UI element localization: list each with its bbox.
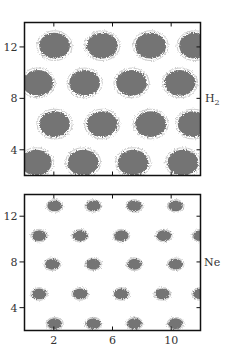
ne-trajectory-cloud <box>46 200 63 213</box>
h2-trajectory-cloud <box>115 148 150 178</box>
ne-trajectory-cloud <box>44 258 61 271</box>
ne-trajectory-cloud <box>46 317 63 330</box>
x-tick-label: 10 <box>164 334 178 347</box>
ne-trajectory-cloud <box>85 258 102 271</box>
ne-trajectory-cloud <box>113 229 130 242</box>
h2-trajectory-cloud <box>133 31 168 61</box>
h2-trajectory-cloud <box>85 31 120 61</box>
h2-trajectory-cloud <box>175 109 210 139</box>
ne-trajectory-cloud <box>126 317 143 330</box>
ne-trajectory-cloud <box>113 288 130 301</box>
ne-trajectory-cloud <box>31 229 48 242</box>
y-tick-label: 8 <box>11 256 18 269</box>
x-tick-label: 6 <box>109 334 116 347</box>
y-tick-label: 8 <box>11 92 18 105</box>
ne-trajectory-cloud <box>31 288 48 301</box>
ne-trajectory-cloud <box>167 317 184 330</box>
h2-panel-label: H2 <box>205 92 220 107</box>
ne-trajectory-cloud <box>85 200 102 213</box>
ne-trajectory-clouds <box>31 200 209 330</box>
y-tick-label: 4 <box>11 144 18 157</box>
x-tick-label: 2 <box>50 334 57 347</box>
h2-trajectory-cloud <box>20 68 55 98</box>
h2-trajectory-cloud <box>37 109 72 139</box>
ne-trajectory-cloud <box>167 258 184 271</box>
h2-trajectory-cloud <box>177 31 212 61</box>
h2-trajectory-cloud <box>65 148 100 178</box>
panel-ne: 48122610 Ne <box>4 195 221 347</box>
h2-trajectory-cloud <box>162 68 197 98</box>
ne-trajectory-cloud <box>85 317 102 330</box>
h2-trajectory-cloud <box>165 148 200 178</box>
ne-trajectory-cloud <box>126 258 143 271</box>
y-tick-label: 12 <box>4 210 18 223</box>
h2-trajectory-clouds <box>19 31 213 178</box>
ne-trajectory-cloud <box>72 288 89 301</box>
y-tick-label: 4 <box>11 302 18 315</box>
ne-trajectory-cloud <box>126 200 143 213</box>
h2-trajectory-cloud <box>37 31 72 61</box>
ne-trajectory-cloud <box>72 229 89 242</box>
h2-trajectory-cloud <box>133 109 168 139</box>
panel-h2: 4812 H2 <box>4 23 220 178</box>
h2-trajectory-cloud <box>67 68 102 98</box>
h2-trajectory-cloud <box>85 109 120 139</box>
figure: 4812 H2 48122610 Ne <box>0 0 231 348</box>
ne-trajectory-cloud <box>154 288 171 301</box>
y-tick-label: 12 <box>4 41 18 54</box>
ne-panel-label: Ne <box>204 256 220 269</box>
ne-trajectory-cloud <box>155 229 172 242</box>
h2-trajectory-cloud <box>114 68 149 98</box>
ne-trajectory-cloud <box>167 200 184 213</box>
